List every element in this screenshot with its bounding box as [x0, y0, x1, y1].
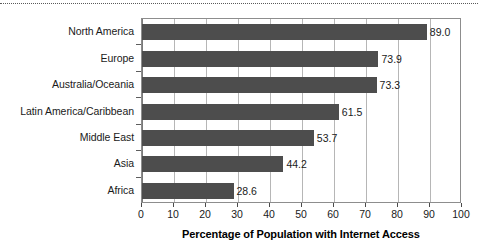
- bar: [142, 104, 339, 120]
- bar-chart-figure: North AmericaEuropeAustralia/OceaniaLati…: [0, 0, 478, 247]
- bar: [142, 24, 427, 40]
- bar-value-label: 53.7: [317, 132, 337, 144]
- bar-value-label: 28.6: [237, 185, 257, 197]
- gridline: [366, 19, 367, 202]
- value-axis: 0102030405060708090100: [141, 203, 461, 225]
- bar-value-label: 73.3: [380, 79, 400, 91]
- x-tick-mark: [173, 203, 174, 207]
- x-tick-mark: [237, 203, 238, 207]
- x-tick-mark: [141, 203, 142, 207]
- x-tick-label: 70: [359, 208, 371, 220]
- x-tick-mark: [397, 203, 398, 207]
- x-tick-mark: [461, 203, 462, 207]
- bar-value-label: 44.2: [286, 158, 306, 170]
- category-axis-labels: North AmericaEuropeAustralia/OceaniaLati…: [0, 18, 134, 203]
- plot-area: 89.073.973.361.553.744.228.6: [141, 18, 461, 203]
- category-label: Africa: [0, 184, 134, 196]
- x-tick-label: 80: [391, 208, 403, 220]
- x-tick-mark: [429, 203, 430, 207]
- x-tick-label: 10: [167, 208, 179, 220]
- gridline: [398, 19, 399, 202]
- category-label: North America: [0, 25, 134, 37]
- category-label: Asia: [0, 157, 134, 169]
- x-tick-label: 50: [295, 208, 307, 220]
- x-tick-mark: [333, 203, 334, 207]
- bar: [142, 156, 283, 172]
- x-tick-mark: [205, 203, 206, 207]
- category-label: Australia/Oceania: [0, 78, 134, 90]
- x-tick-label: 0: [138, 208, 144, 220]
- bar: [142, 77, 377, 93]
- x-tick-label: 100: [452, 208, 470, 220]
- top-dotted-separator: [0, 3, 478, 4]
- bar: [142, 130, 314, 146]
- bar-value-label: 61.5: [342, 106, 362, 118]
- category-label: Middle East: [0, 131, 134, 143]
- x-tick-label: 90: [423, 208, 435, 220]
- x-tick-label: 60: [327, 208, 339, 220]
- bar: [142, 183, 234, 199]
- x-tick-mark: [269, 203, 270, 207]
- category-label: Europe: [0, 52, 134, 64]
- x-tick-label: 20: [199, 208, 211, 220]
- x-tick-label: 30: [231, 208, 243, 220]
- plot-inner: 89.073.973.361.553.744.228.6: [142, 19, 460, 202]
- category-label: Latin America/Caribbean: [0, 105, 134, 117]
- x-axis-title: Percentage of Population with Internet A…: [141, 228, 461, 240]
- gridline: [430, 19, 431, 202]
- bar: [142, 51, 378, 67]
- x-tick-label: 40: [263, 208, 275, 220]
- x-tick-mark: [365, 203, 366, 207]
- bar-value-label: 73.9: [381, 53, 401, 65]
- x-tick-mark: [301, 203, 302, 207]
- bar-value-label: 89.0: [430, 26, 450, 38]
